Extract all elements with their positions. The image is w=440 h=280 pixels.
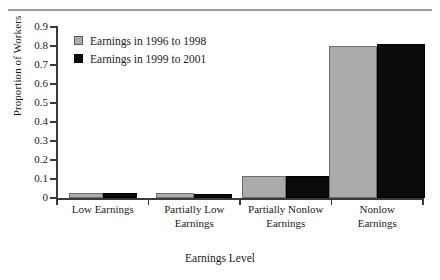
- x-axis-category-line: Earnings: [234, 217, 338, 231]
- x-axis-tick: [56, 199, 58, 205]
- y-axis-tick-label: 0.9: [2, 21, 48, 32]
- legend-label-series-2: Earnings in 1999 to 2001: [90, 53, 206, 65]
- chart-legend: Earnings in 1996 to 1998 Earnings in 199…: [74, 33, 206, 69]
- chart-figure: Proportion of Workers 00.10.20.30.40.50.…: [0, 0, 440, 280]
- y-axis-tick: [50, 83, 57, 85]
- x-axis-category-label: NonlowEarnings: [326, 203, 430, 230]
- bar: [242, 176, 286, 198]
- bar: [377, 44, 425, 198]
- y-axis-tick: [50, 121, 57, 123]
- y-axis-tick-label: 0.8: [2, 40, 48, 51]
- x-axis-tick: [331, 199, 333, 205]
- x-axis-category-line: Partially Nonlow: [234, 203, 338, 217]
- x-axis-category-line: Low Earnings: [51, 203, 155, 217]
- x-axis-category-line: Partially Low: [143, 203, 247, 217]
- legend-label-series-1: Earnings in 1996 to 1998: [90, 35, 206, 47]
- y-axis-tick: [50, 64, 57, 66]
- x-axis-tick: [239, 199, 241, 205]
- bar-group: [242, 27, 330, 198]
- x-axis-category-label: Partially NonlowEarnings: [234, 203, 338, 230]
- x-axis-category-line: Earnings: [326, 217, 430, 231]
- legend-entry: Earnings in 1996 to 1998: [74, 33, 206, 48]
- y-axis-tick-label: 0.5: [2, 97, 48, 108]
- y-axis-tick-label: 0.1: [2, 173, 48, 184]
- y-axis-tick-label: 0.4: [2, 116, 48, 127]
- y-axis-tick-label: 0.6: [2, 78, 48, 89]
- bar: [329, 46, 377, 198]
- y-axis-tick: [50, 26, 57, 28]
- y-axis-tick-label: 0: [2, 192, 48, 203]
- y-axis-tick: [50, 178, 57, 180]
- bar-group: [329, 27, 425, 198]
- legend-swatch-icon-series-2: [74, 54, 83, 63]
- bar: [156, 193, 194, 198]
- x-axis-title: Earnings Level: [0, 252, 440, 264]
- y-axis-tick: [50, 102, 57, 104]
- bar: [69, 193, 103, 198]
- x-axis-category-label: Low Earnings: [51, 203, 155, 217]
- x-axis-category-label: Partially LowEarnings: [143, 203, 247, 230]
- bar: [286, 176, 330, 198]
- x-axis-category-line: Nonlow: [326, 203, 430, 217]
- bar: [194, 194, 232, 198]
- top-horizontal-rule: [8, 9, 432, 11]
- y-axis-tick-label: 0.7: [2, 59, 48, 70]
- y-axis-tick-label: 0.2: [2, 154, 48, 165]
- bar: [103, 193, 137, 198]
- legend-swatch-icon-series-1: [74, 36, 83, 45]
- y-axis-tick: [50, 159, 57, 161]
- y-axis-tick: [50, 140, 57, 142]
- x-axis-tick: [422, 199, 424, 205]
- x-axis-category-line: Earnings: [143, 217, 247, 231]
- x-axis-tick: [148, 199, 150, 205]
- x-axis-category-labels: Low EarningsPartially LowEarningsPartial…: [0, 203, 440, 247]
- y-axis-tick-label: 0.3: [2, 135, 48, 146]
- legend-entry: Earnings in 1999 to 2001: [74, 51, 206, 66]
- y-axis-tick: [50, 45, 57, 47]
